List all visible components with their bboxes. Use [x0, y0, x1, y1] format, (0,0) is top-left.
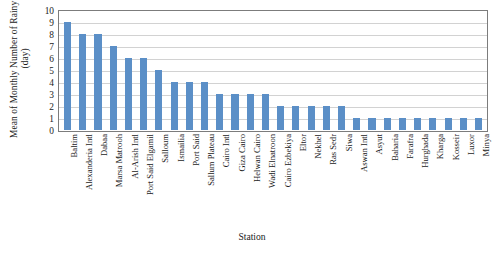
- x-axis-tick: Port Said Elgamil: [135, 133, 150, 225]
- bar-cell[interactable]: [349, 12, 364, 130]
- bar-cell[interactable]: [410, 12, 425, 130]
- bar[interactable]: [94, 34, 101, 130]
- x-axis-tick: Kosseir: [441, 133, 456, 225]
- bar[interactable]: [399, 118, 406, 130]
- x-axis-tick: Salloum: [151, 133, 166, 225]
- y-axis-tick-label: 6: [49, 55, 54, 64]
- bar[interactable]: [277, 106, 284, 130]
- chart-figure: Mean of Monthly Number of Rainy Days (da…: [0, 0, 504, 257]
- x-axis-tick: Giza Cairo: [227, 133, 242, 225]
- bar[interactable]: [368, 118, 375, 130]
- bar[interactable]: [247, 94, 254, 130]
- y-axis-tick-label: 5: [49, 67, 54, 76]
- bar[interactable]: [231, 94, 238, 130]
- bar[interactable]: [201, 82, 208, 130]
- bar[interactable]: [216, 94, 223, 130]
- x-axis-tick: Asyut: [365, 133, 380, 225]
- x-axis-tick: Siwa: [334, 133, 349, 225]
- bar-cell[interactable]: [364, 12, 379, 130]
- bar[interactable]: [64, 22, 71, 130]
- bar-cell[interactable]: [456, 12, 471, 130]
- bar-cell[interactable]: [288, 12, 303, 130]
- bar[interactable]: [338, 106, 345, 130]
- bar[interactable]: [384, 118, 391, 130]
- plot-area: [58, 10, 488, 132]
- x-axis-tick: Ras Sedr: [319, 133, 334, 225]
- bar-cell[interactable]: [167, 12, 182, 130]
- bar[interactable]: [445, 118, 452, 130]
- x-axis-tick: Marsa Matrooh: [105, 133, 120, 225]
- y-axis-tick-label: 4: [49, 79, 54, 88]
- bar-cell[interactable]: [304, 12, 319, 130]
- x-axis-ticks: BaltimAlexanderia IntlDabaaMarsa Matrooh…: [59, 133, 487, 225]
- bar[interactable]: [429, 118, 436, 130]
- x-axis-tick: Cairo Ezbekiya: [273, 133, 288, 225]
- y-axis-tick-label: 7: [49, 43, 54, 52]
- y-axis-title-line1: Mean of Monthly Number of Rainy Days: [9, 0, 19, 138]
- y-axis-ticks: 012345678910: [36, 10, 56, 132]
- bar-cell[interactable]: [395, 12, 410, 130]
- bar-cell[interactable]: [425, 12, 440, 130]
- bar-cell[interactable]: [151, 12, 166, 130]
- x-axis-tick: Nekhel: [304, 133, 319, 225]
- bar[interactable]: [323, 106, 330, 130]
- bar[interactable]: [125, 58, 132, 130]
- bar-cell[interactable]: [182, 12, 197, 130]
- bar-cell[interactable]: [106, 12, 121, 130]
- bar-cell[interactable]: [121, 12, 136, 130]
- bar[interactable]: [155, 70, 162, 130]
- bar-cell[interactable]: [75, 12, 90, 130]
- bar-series: [60, 12, 486, 130]
- bar[interactable]: [186, 82, 193, 130]
- bar-cell[interactable]: [319, 12, 334, 130]
- x-axis-tick: Port Said: [181, 133, 196, 225]
- bar-cell[interactable]: [273, 12, 288, 130]
- x-axis-tick: Baharia: [380, 133, 395, 225]
- bar-cell[interactable]: [334, 12, 349, 130]
- bar-cell[interactable]: [258, 12, 273, 130]
- bar[interactable]: [79, 34, 86, 130]
- bar-cell[interactable]: [440, 12, 455, 130]
- y-axis-title-wrapper: Mean of Monthly Number of Rainy Days (da…: [0, 0, 34, 140]
- bar[interactable]: [460, 118, 467, 130]
- x-axis-tick: Sallum Plateau: [197, 133, 212, 225]
- x-axis-tick: Kharga: [426, 133, 441, 225]
- x-axis-tick: Luxor: [456, 133, 471, 225]
- bar[interactable]: [110, 46, 117, 130]
- y-axis-title-line2: (day): [20, 0, 31, 138]
- bar-cell[interactable]: [90, 12, 105, 130]
- x-axis-tick: Al-Arish Intl: [120, 133, 135, 225]
- bar[interactable]: [292, 106, 299, 130]
- y-axis-title: Mean of Monthly Number of Rainy Days (da…: [9, 0, 31, 138]
- bar-cell[interactable]: [212, 12, 227, 130]
- bar-cell[interactable]: [197, 12, 212, 130]
- bar-cell[interactable]: [243, 12, 258, 130]
- y-axis-tick-label: 9: [49, 19, 54, 28]
- x-axis-tick-label: Minya: [482, 134, 491, 156]
- bar-cell[interactable]: [136, 12, 151, 130]
- bar-cell[interactable]: [227, 12, 242, 130]
- x-axis-tick: Farafra: [395, 133, 410, 225]
- x-axis-tick: Aswan Intl: [349, 133, 364, 225]
- x-axis-tick: Baltim: [59, 133, 74, 225]
- x-axis-tick: Alexanderia Intl: [74, 133, 89, 225]
- bar[interactable]: [414, 118, 421, 130]
- y-axis-tick-label: 0: [49, 127, 54, 136]
- bar[interactable]: [353, 118, 360, 130]
- bar-cell[interactable]: [471, 12, 486, 130]
- bar[interactable]: [475, 118, 482, 130]
- bar-cell[interactable]: [380, 12, 395, 130]
- bar[interactable]: [140, 58, 147, 130]
- x-axis-tick: Helwan Cairo: [242, 133, 257, 225]
- bar[interactable]: [262, 94, 269, 130]
- bar[interactable]: [171, 82, 178, 130]
- y-axis-tick-label: 3: [49, 91, 54, 100]
- y-axis-tick-label: 2: [49, 103, 54, 112]
- x-axis-tick: Wadi Elnatroon: [258, 133, 273, 225]
- y-axis-tick-label: 1: [49, 115, 54, 124]
- x-axis-title: Station: [0, 231, 504, 242]
- bar[interactable]: [308, 106, 315, 130]
- x-axis-tick: Dabaa: [90, 133, 105, 225]
- x-axis-tick: Ismailia: [166, 133, 181, 225]
- bar-cell[interactable]: [60, 12, 75, 130]
